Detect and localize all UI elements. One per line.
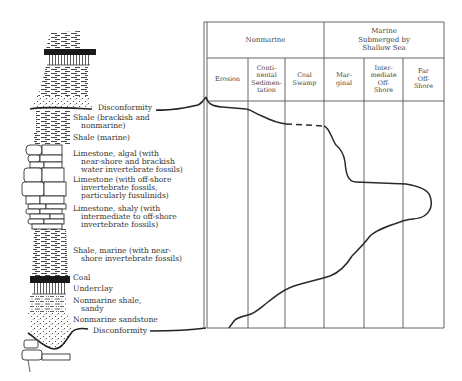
upper-coal-bed bbox=[44, 49, 96, 55]
label-text: water invertebrate fossils) bbox=[73, 166, 183, 174]
header-text: Shallow Sea bbox=[362, 44, 406, 53]
upper-shale-bed bbox=[46, 31, 80, 49]
shale-marine-nearshore-bed bbox=[32, 229, 68, 276]
upper-nonmarine-shale-bed bbox=[38, 66, 88, 96]
nonmarine-shale-sandy-bed bbox=[30, 295, 66, 313]
header-text: Swamp bbox=[293, 80, 317, 87]
environment-curve bbox=[206, 97, 431, 328]
coal-bed bbox=[30, 276, 70, 283]
label-text: sandy bbox=[73, 305, 141, 313]
label-underclay: Underclay bbox=[73, 285, 113, 293]
curve-lower-segment bbox=[229, 256, 352, 328]
top-disconformity-leader bbox=[156, 97, 206, 110]
label-text: Underclay bbox=[73, 284, 113, 293]
header-text: Submerged by bbox=[358, 36, 410, 45]
label-coal: Coal bbox=[73, 274, 90, 282]
curve-marine-segment bbox=[324, 126, 431, 256]
underclay-bed bbox=[33, 283, 65, 294]
upper-underclay-bed bbox=[47, 55, 90, 65]
shale-brackish-bed bbox=[36, 110, 70, 132]
label-limestone-offshore: Limestone (with off-shore invertebrate f… bbox=[73, 176, 171, 201]
label-nonmarine-shale: Nonmarine shale, sandy bbox=[73, 297, 141, 313]
shale-marine-bed bbox=[34, 132, 70, 144]
header-text: Marine bbox=[371, 27, 397, 36]
header-text: Erosion bbox=[215, 76, 240, 83]
label-text: particularly fusulinids) bbox=[73, 192, 171, 200]
header-text: Nonmarine bbox=[246, 36, 286, 45]
header-text: ginal bbox=[336, 80, 352, 87]
header-text: Shore bbox=[414, 83, 433, 90]
label-text: Disconformity bbox=[93, 326, 147, 335]
label-limestone-algal: Limestone, algal (with near-shore and br… bbox=[73, 150, 183, 175]
label-text: Disconformity bbox=[98, 103, 152, 112]
label-shale-marine: Shale (marine) bbox=[73, 134, 130, 142]
label-text: Coal bbox=[73, 273, 90, 282]
limestone-offshore-bed bbox=[22, 168, 66, 204]
label-limestone-shaly: Limestone, shaly (with intermediate to o… bbox=[73, 205, 177, 230]
column-header-far-offshore: Far Off- Shore bbox=[403, 58, 444, 101]
column-header-continental-sedimentation: Conti- nental Sedimen- tation bbox=[248, 58, 285, 101]
header-text: tation bbox=[257, 87, 276, 94]
curve-coal-swamp-dashed bbox=[286, 124, 324, 126]
limestone-shaly-bed bbox=[26, 204, 66, 229]
column-header-marginal: Mar- ginal bbox=[324, 58, 364, 101]
limestone-algal-bed bbox=[26, 145, 62, 168]
header-marine: Marine Submerged by Shallow Sea bbox=[324, 22, 444, 58]
label-text: Shale (marine) bbox=[73, 133, 130, 142]
label-text: nonmarine) bbox=[73, 122, 150, 130]
bottom-disconformity-leader bbox=[150, 328, 206, 331]
column-header-erosion: Erosion bbox=[207, 58, 248, 101]
label-text: Nonmarine sandstone bbox=[73, 315, 158, 324]
label-disconformity-top: Disconformity bbox=[98, 104, 152, 112]
label-text: invertebrate fossils) bbox=[73, 221, 177, 229]
header-text: Shore bbox=[374, 87, 393, 94]
label-text: shore invertebrate fossils) bbox=[73, 255, 182, 263]
column-header-coal-swamp: Coal Swamp bbox=[285, 58, 324, 101]
header-nonmarine: Nonmarine bbox=[207, 22, 324, 58]
label-shale-marine-nearshore: Shale, marine (with near- shore inverteb… bbox=[73, 247, 182, 263]
column-header-intermediate-offshore: Inter- mediate Off- Shore bbox=[364, 58, 403, 101]
label-disconformity-bottom: Disconformity bbox=[93, 327, 147, 335]
label-shale-brackish: Shale (brackish and nonmarine) bbox=[73, 114, 150, 130]
label-nonmarine-sandstone: Nonmarine sandstone bbox=[73, 316, 158, 324]
